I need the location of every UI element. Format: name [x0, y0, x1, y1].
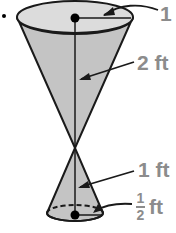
- unit-label: ft: [149, 195, 163, 219]
- bottom-height-label: 1 ft: [138, 158, 170, 182]
- bottom-center-dot: [71, 211, 80, 220]
- fraction: 1 2: [136, 192, 145, 222]
- top-radius-label: 1: [160, 2, 172, 26]
- bottom-radius-label: 1 2 ft: [136, 192, 163, 222]
- fraction-numerator: 1: [137, 192, 145, 205]
- fraction-denominator: 2: [137, 209, 145, 222]
- top-center-dot: [71, 14, 80, 23]
- top-height-label: 2 ft: [137, 51, 169, 75]
